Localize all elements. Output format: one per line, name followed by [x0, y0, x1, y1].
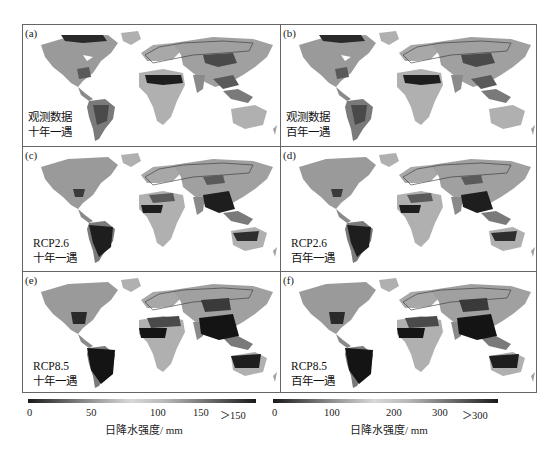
- colorbar1-tick-3: 150: [193, 407, 209, 418]
- panel-label: (d): [283, 149, 296, 161]
- panel-caption: RCP8.5 百年一遇: [291, 359, 335, 389]
- panel-caption: RCP2.6 十年一遇: [33, 236, 77, 266]
- panel-label: (c): [25, 149, 37, 161]
- colorbar1-tick-2: 100: [150, 407, 166, 418]
- colorbar1-tick-0: 0: [27, 407, 32, 418]
- colorbar2-tick-4: ＞300: [462, 407, 488, 422]
- panel-label: (f): [283, 274, 294, 286]
- colorbar2-tick-2: 200: [386, 407, 402, 418]
- panel-caption: 观测数据 十年一遇: [28, 110, 72, 140]
- colorbar1-tick-4: ＞150: [220, 407, 246, 422]
- colorbar-hundred-year: [273, 399, 498, 403]
- panel-e-map: (e) RCP8.5 十年一遇: [23, 272, 280, 392]
- colorbar1-tick-1: 50: [86, 407, 97, 418]
- panel-c-map: (c) RCP2.6 十年一遇: [23, 147, 280, 271]
- panel-label: (a): [25, 27, 37, 39]
- panel-label: (e): [25, 274, 37, 286]
- colorbar1-unit-label: 日降水强度/ mm: [105, 421, 183, 437]
- colorbar2-tick-1: 100: [324, 407, 340, 418]
- panel-label: (b): [283, 27, 296, 39]
- panel-caption: 观测数据 百年一遇: [286, 110, 330, 140]
- panel-b-map: (b) 观测数据 百年一遇: [281, 25, 536, 146]
- panel-f-map: (f) RCP8.5 百年一遇: [281, 272, 536, 392]
- panel-a-map: (a) 观测数据 十年一遇: [23, 25, 280, 146]
- colorbar-ten-year: [28, 399, 256, 403]
- colorbar2-tick-0: 0: [272, 407, 277, 418]
- panel-caption: RCP2.6 百年一遇: [291, 236, 335, 266]
- panel-d-map: (d) RCP2.6 百年一遇: [281, 147, 536, 271]
- colorbar2-unit-label: 日降水强度/ mm: [350, 421, 428, 437]
- colorbar2-tick-3: 300: [432, 407, 448, 418]
- panel-caption: RCP8.5 十年一遇: [33, 359, 77, 389]
